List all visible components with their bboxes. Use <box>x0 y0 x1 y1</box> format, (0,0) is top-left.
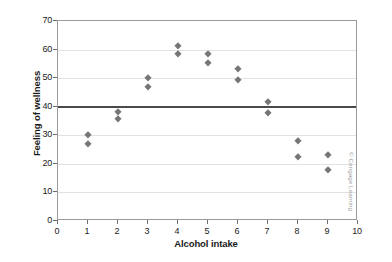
y-tick-label: 10 <box>12 186 52 196</box>
data-point <box>294 154 301 161</box>
y-tick-label: 0 <box>12 215 52 225</box>
y-tick-mark <box>53 106 57 107</box>
x-tick-mark <box>57 220 58 224</box>
x-tick-label: 9 <box>312 226 342 236</box>
x-tick-label: 7 <box>252 226 282 236</box>
x-tick-label: 4 <box>162 226 192 236</box>
x-tick-mark <box>297 220 298 224</box>
y-tick-mark <box>53 134 57 135</box>
x-tick-mark <box>267 220 268 224</box>
x-tick-label: 1 <box>72 226 102 236</box>
y-tick-label: 70 <box>12 15 52 25</box>
y-tick-mark <box>53 20 57 21</box>
data-point <box>114 108 121 115</box>
x-tick-label: 3 <box>132 226 162 236</box>
data-point <box>294 137 301 144</box>
x-tick-mark <box>147 220 148 224</box>
data-point <box>174 51 181 58</box>
reference-line <box>58 106 356 108</box>
data-point <box>204 51 211 58</box>
y-tick-label: 40 <box>12 101 52 111</box>
x-tick-mark <box>177 220 178 224</box>
data-point <box>324 166 331 173</box>
x-tick-mark <box>327 220 328 224</box>
x-tick-mark <box>117 220 118 224</box>
y-tick-mark <box>53 191 57 192</box>
gridline <box>58 192 356 193</box>
y-tick-label: 30 <box>12 129 52 139</box>
x-tick-mark <box>87 220 88 224</box>
x-tick-mark <box>357 220 358 224</box>
y-axis-title: Feeling of wellness <box>31 34 42 194</box>
x-tick-label: 6 <box>222 226 252 236</box>
data-point <box>324 152 331 159</box>
data-point <box>144 83 151 90</box>
copyright-credit: © Cengage Learning <box>348 152 355 232</box>
data-point <box>84 140 91 147</box>
y-tick-label: 50 <box>12 72 52 82</box>
x-tick-label: 0 <box>42 226 72 236</box>
y-tick-mark <box>53 163 57 164</box>
x-tick-mark <box>207 220 208 224</box>
scatter-plot-figure: Feeling of wellness 010203040506070 0123… <box>0 0 392 262</box>
data-point <box>174 42 181 49</box>
y-tick-label: 60 <box>12 44 52 54</box>
data-point <box>84 132 91 139</box>
data-point <box>264 110 271 117</box>
x-tick-label: 10 <box>342 226 372 236</box>
plot-area <box>57 20 357 220</box>
gridline <box>58 78 356 79</box>
gridline <box>58 135 356 136</box>
y-tick-mark <box>53 49 57 50</box>
x-tick-label: 8 <box>282 226 312 236</box>
gridline <box>58 164 356 165</box>
data-point <box>144 74 151 81</box>
data-point <box>204 59 211 66</box>
x-tick-mark <box>237 220 238 224</box>
x-tick-label: 5 <box>192 226 222 236</box>
x-tick-label: 2 <box>102 226 132 236</box>
data-point <box>114 115 121 122</box>
data-point <box>234 65 241 72</box>
y-tick-mark <box>53 77 57 78</box>
y-tick-label: 20 <box>12 158 52 168</box>
x-axis-title: Alcohol intake <box>55 238 357 249</box>
